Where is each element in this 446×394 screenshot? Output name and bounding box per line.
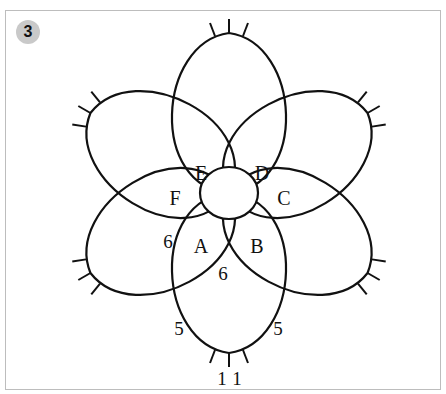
tatting-flower-diagram: E D F C A B 6 6 5 5 1 1 xyxy=(0,0,446,394)
stitch-count-tip-right: 1 xyxy=(232,368,242,389)
stitch-count-a-inner: 6 xyxy=(218,263,228,284)
center-ring xyxy=(200,167,258,219)
stitch-count-tip-left: 1 xyxy=(217,368,227,389)
loop-label-d: D xyxy=(255,162,269,184)
stitch-count-bottom-left: 5 xyxy=(174,318,184,339)
loop-label-b: B xyxy=(250,235,263,257)
loop-label-a: A xyxy=(194,235,209,257)
loop-label-f: F xyxy=(169,187,180,209)
stitch-count-a-outer: 6 xyxy=(163,231,173,252)
loop-label-e: E xyxy=(195,162,207,184)
stitch-count-bottom-right: 5 xyxy=(273,318,283,339)
loop-label-c: C xyxy=(277,187,290,209)
